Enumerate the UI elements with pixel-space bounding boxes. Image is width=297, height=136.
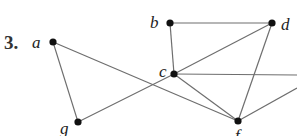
vertex-g — [74, 118, 81, 125]
edge-g-c — [78, 74, 174, 122]
edge-b-c — [170, 23, 174, 74]
vertex-b — [166, 19, 173, 26]
edge-c-offright1 — [174, 74, 297, 75]
edge-a-g — [53, 42, 78, 122]
vertex-label-f: f — [235, 126, 242, 136]
edge-f-offright2 — [238, 88, 297, 121]
vertex-d — [268, 19, 275, 26]
vertex-f — [234, 117, 241, 124]
problem-number: 3. — [4, 32, 18, 53]
vertex-label-a: a — [32, 33, 41, 52]
vertex-label-b: b — [150, 13, 159, 32]
vertex-label-d: d — [281, 15, 290, 34]
edge-a-f — [53, 42, 238, 121]
vertex-label-c: c — [159, 62, 167, 81]
graph-diagram: 3. a b d c f g — [0, 0, 297, 136]
vertex-label-g: g — [60, 119, 69, 136]
vertex-c — [170, 70, 177, 77]
vertex-a — [49, 38, 56, 45]
